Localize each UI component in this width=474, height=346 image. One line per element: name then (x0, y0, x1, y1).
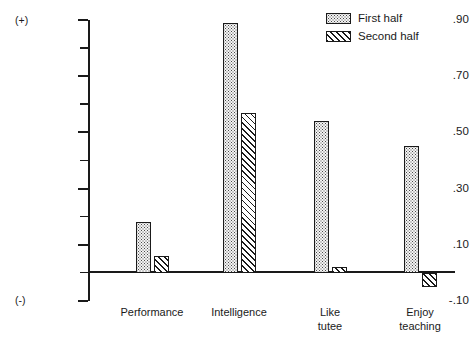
legend-swatch-icon (326, 31, 351, 42)
legend-item: Second half (326, 29, 419, 44)
bar-second-half-intelligence (241, 113, 256, 273)
y-tick (80, 160, 88, 162)
bar-first-half-intelligence (223, 23, 238, 273)
axis-sign-negative: (-) (15, 295, 26, 306)
y-tick (78, 244, 88, 246)
bar-second-half-like-tutee (332, 267, 347, 273)
chart-legend: First halfSecond half (326, 11, 419, 47)
legend-label: Second half (358, 31, 419, 43)
axis-sign-positive: (+) (15, 15, 28, 26)
legend-item: First half (326, 11, 419, 26)
y-tick (78, 131, 88, 133)
y-tick (80, 103, 88, 105)
y-tick (78, 300, 88, 302)
bar-first-half-enjoy-teaching (404, 146, 419, 272)
bar-first-half-performance (136, 222, 151, 273)
y-tick (78, 188, 88, 190)
legend-label: First half (358, 13, 402, 25)
y-tick (78, 19, 88, 21)
plot-area (88, 20, 455, 301)
y-tick (80, 272, 88, 274)
x-axis-label: Enjoy teaching (365, 306, 474, 333)
bar-second-half-enjoy-teaching (422, 273, 437, 287)
bar-second-half-performance (154, 256, 169, 273)
y-tick (80, 216, 88, 218)
bar-first-half-like-tutee (314, 121, 329, 273)
y-tick (80, 47, 88, 49)
y-tick (78, 75, 88, 77)
legend-swatch-icon (326, 13, 351, 24)
